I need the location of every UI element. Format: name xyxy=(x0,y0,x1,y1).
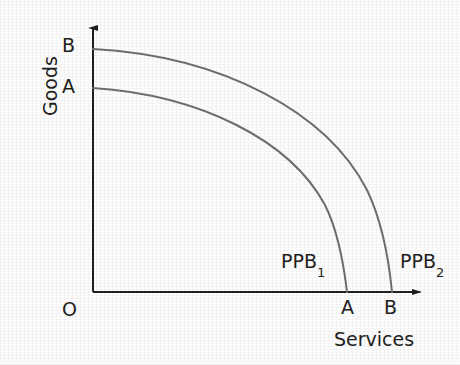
curve-label-ppb1-subscript: 1 xyxy=(317,265,325,280)
y-tick-label-a: A xyxy=(62,77,75,96)
curve-label-ppb2-subscript: 2 xyxy=(436,265,444,280)
curve-label-ppb1: PPB1 xyxy=(281,252,325,275)
ppf-chart-figure: Goods B A O A B PPB1 PPB2 Services xyxy=(0,0,460,365)
y-axis-title: Goods xyxy=(41,56,60,116)
curve-label-ppb2-base: PPB xyxy=(400,250,436,272)
x-axis-title: Services xyxy=(334,330,414,349)
x-tick-label-a: A xyxy=(341,298,354,317)
curve-label-ppb1-base: PPB xyxy=(281,250,317,272)
origin-label: O xyxy=(62,300,77,319)
y-tick-label-b: B xyxy=(62,36,75,55)
x-tick-label-b: B xyxy=(384,298,397,317)
curve-ppb2 xyxy=(93,49,392,292)
curve-label-ppb2: PPB2 xyxy=(400,252,444,275)
